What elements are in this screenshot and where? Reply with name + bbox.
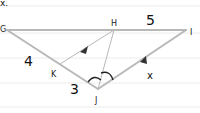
point-label-H: H (111, 19, 117, 28)
point-label-G: G (0, 25, 6, 34)
measure-JI: x (147, 70, 153, 81)
parallel-arrow-icon (80, 46, 88, 54)
point-label-K: K (51, 70, 57, 79)
measure-HI: 5 (146, 12, 155, 28)
angle-arc-icon (88, 77, 101, 82)
angle-arc-icon (101, 72, 113, 80)
measure-GK: 4 (24, 53, 33, 69)
point-label-I: I (190, 28, 192, 37)
triangle-diagram: x. G H I J K 4 3 5 x (0, 0, 200, 113)
point-label-J: J (94, 96, 97, 105)
measure-KJ: 3 (70, 81, 79, 97)
segment-GJ (7, 30, 98, 89)
top-text-fragment: x. (0, 0, 8, 8)
